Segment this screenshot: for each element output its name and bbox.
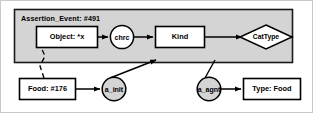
diagram-canvas: Assertion_Event: #491 Object: *x chrc Ki… [0, 0, 314, 114]
node-chrc-label: chrc [110, 34, 134, 41]
node-kind-label: Kind [155, 33, 205, 40]
node-a-agnt-label: a_agnt [195, 86, 223, 93]
node-a-init-label: a_init [100, 86, 128, 93]
node-object-label: Object: *x [36, 33, 98, 40]
node-type-food-label: Type: Food [243, 85, 301, 92]
node-cattype-label: CatType [240, 34, 292, 41]
assertion-event-label: Assertion_Event: #491 [21, 14, 100, 23]
node-food-label: Food: #176 [19, 85, 76, 92]
